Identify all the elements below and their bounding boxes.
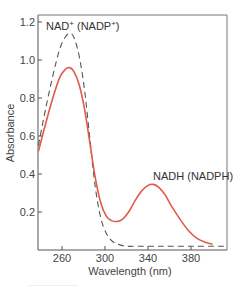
y-tick-label: 0.4: [20, 168, 35, 180]
x-tick-label: 380: [182, 252, 200, 264]
nadh-annotation: NADH (NADPH): [153, 170, 233, 182]
plot-frame: [38, 15, 227, 250]
y-tick-label: 0.8: [20, 92, 35, 104]
y-tick-label: 0.6: [20, 130, 35, 142]
x-tick-label: 260: [53, 252, 71, 264]
y-ticks: 0.20.40.60.81.01.2: [20, 16, 42, 218]
x-tick-label: 340: [139, 252, 157, 264]
y-tick-label: 0.2: [20, 206, 35, 218]
x-ticks: 260300340380: [53, 246, 200, 264]
series-layer: [38, 33, 226, 246]
nad-oxidized-curve: [38, 33, 226, 246]
x-tick-label: 300: [96, 252, 114, 264]
nad-annotation: NAD+ (NADP+): [46, 19, 120, 32]
nadh-reduced-curve: [38, 68, 212, 245]
absorbance-chart: 0.20.40.60.81.01.2 260300340380 Waveleng…: [0, 0, 242, 288]
decorative-line: [28, 285, 78, 286]
y-axis-label: Absorbance: [4, 104, 16, 163]
y-tick-label: 1.0: [20, 54, 35, 66]
x-axis-label: Wavelength (nm): [88, 265, 171, 277]
y-tick-label: 1.2: [20, 16, 35, 28]
